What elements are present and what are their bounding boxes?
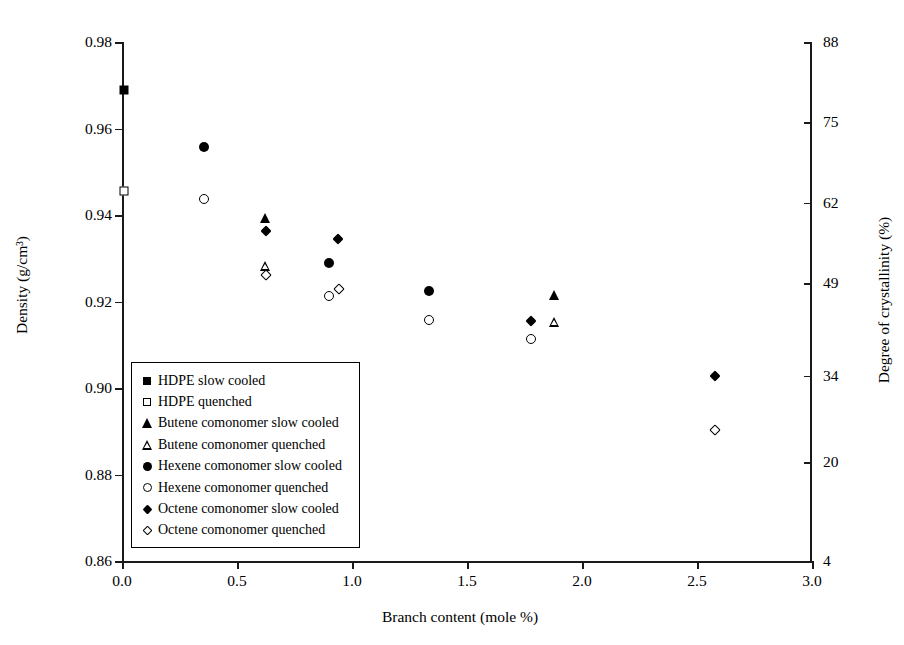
legend-item[interactable]: Octene comonomer slow cooled: [140, 498, 359, 519]
y-tick-left: [115, 302, 123, 304]
marker-circle-open-icon: [424, 315, 434, 325]
marker-triangle-filled-icon: [260, 213, 270, 223]
marker-circle-filled-icon: [324, 258, 334, 268]
y-tick-right: [804, 376, 812, 378]
chart-figure: Density (g/cm³) Degree of crystallinity …: [0, 0, 904, 645]
legend-marker: [140, 503, 154, 515]
data-point: [324, 258, 334, 268]
legend-label: Butene comonomer slow cooled: [158, 416, 339, 430]
y-tick-label-right: 4: [823, 553, 831, 569]
x-tick-label: 0.0: [112, 573, 131, 589]
legend-item[interactable]: HDPE slow cooled: [140, 370, 359, 391]
data-point: [527, 317, 535, 325]
marker-diamond-filled-icon: [710, 370, 721, 381]
marker-triangle-open-icon: [549, 317, 559, 327]
x-tick-label: 1.5: [457, 573, 476, 589]
x-tick-label: 2.0: [572, 573, 591, 589]
marker-square-open-icon: [143, 398, 151, 406]
legend-marker: [140, 375, 154, 387]
y-axis-title-left: Density (g/cm³): [13, 236, 31, 334]
y-tick-right: [804, 462, 812, 464]
y-tick-label-right: 34: [823, 368, 839, 384]
y-tick-label-left: 0.94: [85, 207, 112, 223]
marker-diamond-open-icon: [334, 284, 345, 295]
y-tick-label-right: 62: [823, 195, 839, 211]
marker-triangle-filled-icon: [549, 290, 559, 300]
y-axis-title-right: Degree of crystallinity (%): [875, 217, 893, 384]
data-point: [120, 86, 129, 95]
marker-diamond-open-icon: [260, 269, 271, 280]
marker-circle-filled-icon: [199, 142, 209, 152]
legend-label: HDPE quenched: [158, 395, 252, 409]
y-tick-right: [804, 561, 812, 563]
legend-label: Hexene comonomer slow cooled: [158, 459, 342, 473]
legend-marker: [140, 439, 154, 451]
legend-label: Octene comonomer quenched: [158, 523, 325, 537]
y-axis-right-line: [810, 42, 812, 563]
data-point: [260, 213, 270, 223]
x-tick: [582, 561, 584, 569]
legend-marker: [140, 482, 154, 494]
legend-item[interactable]: Butene comonomer slow cooled: [140, 413, 359, 434]
x-tick-label: 3.0: [802, 573, 821, 589]
data-point: [262, 271, 270, 279]
marker-square-filled-icon: [143, 377, 151, 385]
marker-diamond-filled-icon: [333, 233, 344, 244]
data-point: [711, 372, 719, 380]
y-tick-left: [115, 42, 123, 44]
y-tick-right: [804, 122, 812, 124]
data-point: [549, 290, 559, 300]
y-tick-left: [115, 388, 123, 390]
y-tick-label-right: 20: [823, 454, 839, 470]
marker-circle-filled-icon: [143, 462, 152, 471]
x-tick: [352, 561, 354, 569]
x-tick: [812, 561, 814, 569]
data-point: [120, 187, 129, 196]
y-tick-right: [804, 283, 812, 285]
legend-item[interactable]: HDPE quenched: [140, 391, 359, 412]
marker-diamond-filled-icon: [142, 504, 152, 514]
data-point: [424, 286, 434, 296]
x-tick: [697, 561, 699, 569]
marker-diamond-open-icon: [142, 525, 152, 535]
legend-item[interactable]: Hexene comonomer slow cooled: [140, 456, 359, 477]
marker-triangle-open-icon: [142, 440, 152, 450]
marker-diamond-filled-icon: [260, 225, 271, 236]
marker-square-filled-icon: [120, 86, 129, 95]
x-tick: [467, 561, 469, 569]
data-point: [711, 426, 719, 434]
legend-label: Octene comonomer slow cooled: [158, 502, 339, 516]
y-tick-left: [115, 475, 123, 477]
y-tick-label-left: 0.86: [85, 553, 112, 569]
legend-item[interactable]: Butene comonomer quenched: [140, 434, 359, 455]
y-tick-label-left: 0.92: [85, 294, 112, 310]
x-axis-title: Branch content (mole %): [382, 608, 538, 626]
y-tick-left: [115, 129, 123, 131]
data-point: [549, 317, 559, 327]
y-tick-label-left: 0.90: [85, 380, 112, 396]
x-tick: [122, 561, 124, 569]
legend-marker: [140, 524, 154, 536]
data-point: [335, 285, 343, 293]
y-tick-left: [115, 215, 123, 217]
legend-item[interactable]: Hexene comonomer quenched: [140, 477, 359, 498]
x-tick-label: 2.5: [687, 573, 706, 589]
x-tick-label: 1.0: [342, 573, 361, 589]
marker-circle-open-icon: [199, 194, 209, 204]
y-tick-label-left: 0.88: [85, 467, 112, 483]
data-point: [262, 227, 270, 235]
legend-label: HDPE slow cooled: [158, 374, 265, 388]
y-tick-label-right: 49: [823, 275, 839, 291]
data-point: [334, 235, 342, 243]
legend-marker: [140, 396, 154, 408]
marker-diamond-open-icon: [710, 424, 721, 435]
marker-circle-open-icon: [526, 334, 536, 344]
legend-marker: [140, 417, 154, 429]
marker-circle-filled-icon: [424, 286, 434, 296]
legend-item[interactable]: Octene comonomer quenched: [140, 520, 359, 541]
data-point: [526, 334, 536, 344]
data-point: [424, 315, 434, 325]
legend-label: Hexene comonomer quenched: [158, 481, 328, 495]
y-tick-label-right: 75: [823, 115, 839, 131]
chart-legend: HDPE slow cooledHDPE quenchedButene como…: [131, 362, 360, 548]
